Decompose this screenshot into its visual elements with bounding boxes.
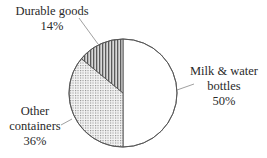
label-durable-goods-name: Durable goods bbox=[2, 4, 102, 19]
label-other-pct: 36% bbox=[0, 134, 70, 149]
label-other-containers: Other containers 36% bbox=[0, 104, 70, 149]
label-milk-water-bottles: Milk & water bottles 50% bbox=[181, 64, 267, 109]
label-durable-goods-pct: 14% bbox=[2, 19, 102, 34]
label-durable-goods: Durable goods 14% bbox=[2, 4, 102, 34]
label-milk-line1: Milk & water bbox=[181, 64, 267, 79]
slice-milk-water-bottles bbox=[123, 39, 177, 147]
label-milk-line2: bottles bbox=[181, 79, 267, 94]
label-other-line1: Other bbox=[0, 104, 70, 119]
pie-chart-figure: Durable goods 14% Milk & water bottles 5… bbox=[0, 0, 267, 158]
label-other-line2: containers bbox=[0, 119, 70, 134]
label-milk-pct: 50% bbox=[181, 94, 267, 109]
